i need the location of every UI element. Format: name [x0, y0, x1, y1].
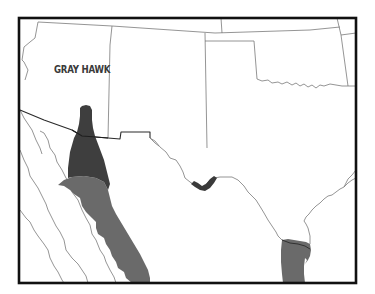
baja-coast-far [20, 210, 64, 283]
border-az-ut [38, 22, 340, 33]
border-az-nv [22, 22, 38, 80]
border-rio-grande [150, 138, 305, 244]
range-areas [58, 105, 311, 283]
range-big-bend [191, 176, 217, 191]
range-map: GRAY HAWK [0, 0, 375, 294]
border-co-ks [221, 18, 222, 33]
map-canvas [0, 0, 375, 294]
border-ok-east [341, 35, 348, 86]
border-nm-tx [205, 33, 207, 148]
range-south-texas [281, 239, 311, 283]
border-red-river [257, 79, 356, 88]
border-chihuahua-sonora [150, 138, 159, 146]
map-title: GRAY HAWK [54, 63, 110, 75]
border-ks-ok-top [337, 18, 356, 35]
border-az-nm [108, 26, 112, 138]
california-coast [20, 110, 42, 154]
gulf-coast [304, 178, 356, 244]
border-ok-panhandle [205, 41, 257, 79]
